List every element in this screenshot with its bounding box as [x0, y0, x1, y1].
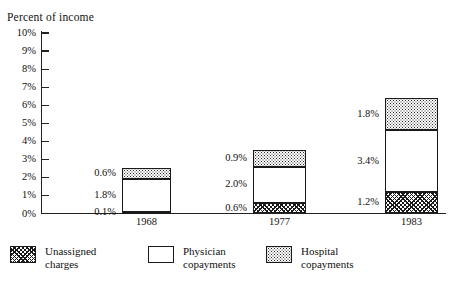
legend-swatch: [10, 246, 36, 263]
y-axis-tick: [42, 141, 49, 142]
y-axis-tick-label: 5%: [0, 118, 36, 129]
bar-value-label: 1.2%: [341, 197, 379, 208]
bar-segment: [253, 167, 306, 203]
chart-canvas: Percent of income 10%9%8%7%6%5%4%3%2%1%0…: [0, 0, 454, 232]
y-axis-tick: [42, 32, 49, 33]
y-axis-tick: [42, 87, 49, 88]
y-axis-tick: [42, 213, 49, 214]
legend-item: Physician copayments: [148, 245, 236, 270]
legend-item: Unassigned charges: [10, 245, 96, 270]
y-axis-tick: [42, 50, 49, 51]
bar-1977: [253, 33, 306, 214]
bar-segment: [385, 98, 438, 130]
legend-label: Unassigned charges: [45, 245, 96, 270]
y-axis-tick-label: 1%: [0, 190, 36, 201]
bar-segment: [253, 150, 306, 166]
bar-value-label: 2.0%: [209, 179, 247, 190]
chart-legend: Unassigned chargesPhysician copaymentsHo…: [0, 238, 454, 294]
bar-value-label: 1.8%: [341, 109, 379, 120]
bar-value-label: 1.8%: [78, 190, 116, 201]
bar-value-label: 0.6%: [209, 203, 247, 214]
y-axis-tick: [42, 105, 49, 106]
legend-label: Hospital copayments: [301, 245, 354, 270]
y-axis-tick-label: 6%: [0, 100, 36, 111]
bar-segment: [122, 168, 171, 179]
bar-segment: [122, 212, 171, 214]
legend-swatch: [266, 246, 292, 263]
bar-segment: [122, 179, 171, 211]
y-axis-tick-label: 9%: [0, 46, 36, 57]
y-axis-tick-label: 3%: [0, 154, 36, 165]
x-axis-label-1983: 1983: [369, 216, 454, 227]
legend-label: Physician copayments: [183, 245, 236, 270]
y-axis-tick-label: 0%: [0, 209, 36, 220]
bar-segment: [253, 203, 306, 214]
bar-segment: [385, 130, 438, 191]
legend-swatch: [148, 246, 174, 263]
y-axis-tick-label: 8%: [0, 64, 36, 75]
y-axis-tick-label: 10%: [0, 28, 36, 39]
y-axis-tick: [42, 159, 49, 160]
bar-value-label: 0.6%: [78, 168, 116, 179]
y-axis-title: Percent of income: [7, 11, 94, 23]
y-axis-tick: [42, 177, 49, 178]
y-axis-tick-label: 7%: [0, 82, 36, 93]
x-axis-label-1977: 1977: [237, 216, 322, 227]
y-axis-tick: [42, 195, 49, 196]
y-axis-tick: [42, 123, 49, 124]
legend-item: Hospital copayments: [266, 245, 354, 270]
y-axis-tick-label: 2%: [0, 172, 36, 183]
bar-value-label: 0.9%: [209, 153, 247, 164]
bar-segment: [385, 192, 438, 214]
bar-1983: [385, 33, 438, 214]
bar-1968: [122, 33, 171, 214]
y-axis-tick: [42, 69, 49, 70]
bar-value-label: 3.4%: [341, 156, 379, 167]
x-axis-label-1968: 1968: [106, 216, 187, 227]
y-axis-tick-label: 4%: [0, 136, 36, 147]
